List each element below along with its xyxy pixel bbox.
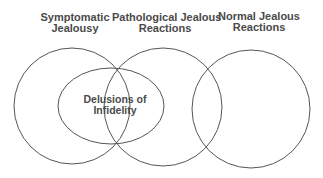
label-pathological-line2: Reactions xyxy=(112,23,218,34)
label-normal-jealous-reactions: Normal Jealous Reactions xyxy=(216,11,302,33)
label-delusions-of-infidelity: Delusions of Infidelity xyxy=(80,94,150,116)
label-symptomatic-line2: Jealousy xyxy=(36,23,114,34)
label-normal-line2: Reactions xyxy=(216,22,302,33)
label-delusions-line2: Infidelity xyxy=(80,105,150,116)
label-pathological-jealous-reactions: Pathological Jealous Reactions xyxy=(112,12,218,34)
venn-diagram: Symptomatic Jealousy Pathological Jealou… xyxy=(0,0,323,178)
set-circle-normal-jealous-reactions xyxy=(192,50,310,168)
label-symptomatic-jealousy: Symptomatic Jealousy xyxy=(36,12,114,34)
